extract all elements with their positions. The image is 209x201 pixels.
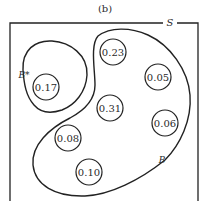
svg-text:0.31: 0.31 (99, 103, 121, 114)
figure-caption: (b) (98, 3, 112, 14)
outcome-0-08: 0.08 (55, 125, 81, 151)
outcome-0-31: 0.31 (97, 95, 123, 121)
event-b-label: B (158, 155, 166, 165)
event-b-star-boundary (23, 41, 87, 112)
outcome-0-05: 0.05 (145, 64, 171, 90)
outcome-0-17: 0.17 (33, 74, 59, 100)
svg-text:0.10: 0.10 (78, 167, 100, 178)
svg-text:0.05: 0.05 (147, 72, 169, 83)
svg-text:0.23: 0.23 (102, 47, 124, 58)
outcome-0-23: 0.23 (100, 39, 126, 65)
svg-text:0.17: 0.17 (35, 82, 57, 93)
venn-diagram: (b) S B* B 0.17 0.23 0.05 0.31 0.06 0.08… (0, 0, 209, 201)
sample-space-label: S (167, 17, 174, 28)
svg-text:0.08: 0.08 (57, 133, 79, 144)
outcome-0-06: 0.06 (152, 110, 178, 136)
svg-text:0.06: 0.06 (154, 118, 176, 129)
event-b-star-label: B* (17, 70, 30, 80)
outcome-0-10: 0.10 (76, 159, 102, 185)
